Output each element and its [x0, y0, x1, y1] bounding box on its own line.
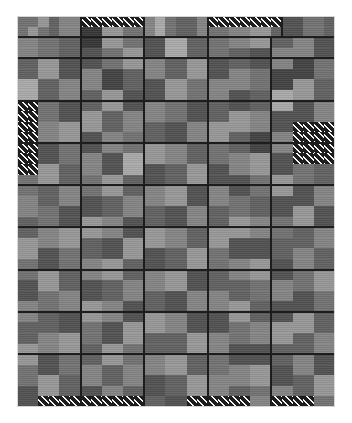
mosaic-cell	[314, 164, 325, 175]
mosaic-cell	[208, 365, 219, 376]
mosaic-cell	[59, 16, 70, 27]
mosaic-cell	[197, 270, 208, 281]
mosaic-cell	[165, 238, 176, 249]
mosaic-cell	[314, 396, 325, 407]
mosaic-cell	[176, 333, 187, 344]
mosaic-cell	[155, 196, 166, 207]
mosaic-cell	[293, 164, 304, 175]
mosaic-cell	[38, 333, 49, 344]
mosaic-cell	[314, 354, 325, 365]
mosaic-cell	[123, 58, 134, 69]
mosaic-cell	[324, 259, 335, 270]
mosaic-cell	[59, 312, 70, 323]
mosaic-cell	[112, 16, 123, 27]
mosaic-cell	[102, 322, 113, 333]
mosaic-cell	[324, 206, 335, 217]
mosaic-cell	[282, 122, 293, 133]
mosaic-cell	[59, 238, 70, 249]
mosaic-cell	[81, 248, 92, 259]
mosaic-cell	[81, 354, 92, 365]
mosaic-cell	[218, 132, 229, 143]
mosaic-cell	[28, 111, 39, 122]
mosaic-cell	[229, 164, 240, 175]
mosaic-cell	[176, 248, 187, 259]
mosaic-cell	[144, 206, 155, 217]
mosaic-cell	[38, 291, 49, 302]
mosaic-cell	[112, 175, 123, 186]
mosaic-cell	[324, 375, 335, 386]
mosaic-cell	[282, 227, 293, 238]
mosaic-cell	[17, 196, 28, 207]
mosaic-cell	[134, 143, 145, 154]
mosaic-cell	[38, 386, 49, 397]
mosaic-cell	[70, 259, 81, 270]
mosaic-cell	[218, 312, 229, 323]
mosaic-cell	[324, 248, 335, 259]
mosaic-cell	[324, 196, 335, 207]
mosaic-cell	[197, 312, 208, 323]
mosaic-cell	[282, 132, 293, 143]
mosaic-cell	[261, 301, 272, 312]
mosaic-cell	[70, 365, 81, 376]
mosaic-cell	[187, 27, 198, 38]
mosaic-cell	[49, 396, 60, 407]
mosaic-cell	[49, 153, 60, 164]
mosaic-cell	[81, 185, 92, 196]
mosaic-cell	[17, 248, 28, 259]
mosaic-cell	[91, 301, 102, 312]
mosaic-cell	[28, 248, 39, 259]
mosaic-cell	[81, 375, 92, 386]
mosaic-cell	[261, 122, 272, 133]
mosaic-cell	[303, 175, 314, 186]
mosaic-cell	[81, 69, 92, 80]
mosaic-cell	[218, 375, 229, 386]
mosaic-cell	[240, 301, 251, 312]
mosaic-cell	[81, 90, 92, 101]
mosaic-cell	[28, 37, 39, 48]
mosaic-cell	[293, 69, 304, 80]
mosaic-cell	[218, 164, 229, 175]
mosaic-cell	[38, 270, 49, 281]
mosaic-cell	[144, 37, 155, 48]
mosaic-cell	[240, 16, 251, 27]
mosaic-cell	[91, 322, 102, 333]
mosaic-cell	[303, 301, 314, 312]
mosaic-cell	[197, 248, 208, 259]
mosaic-cell	[70, 16, 81, 27]
mosaic-cell	[271, 27, 282, 38]
mosaic-cell	[271, 111, 282, 122]
mosaic-cell	[293, 248, 304, 259]
mosaic-cell	[293, 227, 304, 238]
mosaic-cell	[218, 111, 229, 122]
mosaic-cell	[91, 132, 102, 143]
mosaic-cell	[102, 48, 113, 59]
mosaic-cell	[218, 90, 229, 101]
mosaic-cell	[314, 365, 325, 376]
mosaic-cell	[81, 238, 92, 249]
mosaic-cell	[38, 248, 49, 259]
mosaic-cell	[70, 227, 81, 238]
mosaic-cell	[28, 291, 39, 302]
mosaic-cell	[81, 164, 92, 175]
mosaic-cell	[303, 206, 314, 217]
mosaic-cell	[28, 122, 39, 133]
mosaic-cell	[155, 365, 166, 376]
mosaic-cell	[81, 111, 92, 122]
mosaic-cell	[134, 69, 145, 80]
mosaic-cell	[271, 16, 282, 27]
mosaic-cell	[91, 122, 102, 133]
mosaic-cell	[324, 111, 335, 122]
mosaic-cell	[293, 301, 304, 312]
mosaic-cell	[134, 196, 145, 207]
mosaic-cell	[271, 344, 282, 355]
mosaic-cell	[261, 396, 272, 407]
mosaic-cell	[70, 375, 81, 386]
mosaic-cell	[197, 196, 208, 207]
mosaic-cell	[314, 69, 325, 80]
mosaic-cell	[17, 164, 28, 175]
mosaic-cell	[293, 196, 304, 207]
mosaic-cell	[282, 344, 293, 355]
mosaic-cell	[197, 206, 208, 217]
mosaic-cell	[91, 111, 102, 122]
mosaic-cell	[123, 270, 134, 281]
